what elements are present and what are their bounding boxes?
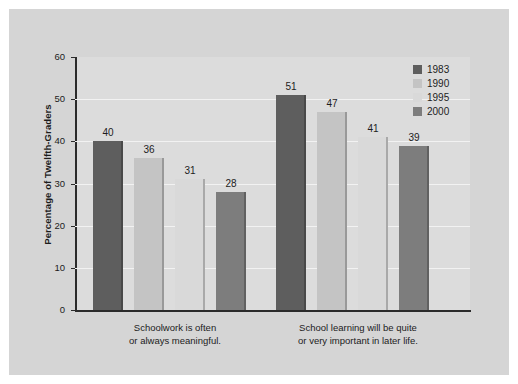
category-label: School learning will be quiteor very imp…	[253, 321, 463, 347]
y-tick-label: 40	[35, 136, 65, 146]
bar-value-label: 36	[129, 144, 169, 155]
y-tick-label: 20	[35, 221, 65, 231]
legend-swatch-icon	[413, 93, 422, 102]
legend-swatch-icon	[413, 79, 422, 88]
bar-value-label: 41	[353, 123, 393, 134]
bar-value-label: 31	[170, 165, 210, 176]
y-tick-label: 0	[35, 305, 65, 315]
legend-item: 1983	[413, 63, 449, 76]
bar	[134, 158, 164, 310]
y-tick-label: 10	[35, 263, 65, 273]
bar-value-label: 39	[394, 132, 434, 143]
bar	[175, 179, 205, 310]
y-tick-label: 60	[35, 52, 65, 62]
legend-swatch-icon	[413, 107, 422, 116]
y-tick-mark	[71, 57, 75, 58]
legend: 1983199019952000	[413, 63, 449, 119]
y-tick-mark	[71, 268, 75, 269]
y-tick-mark	[71, 226, 75, 227]
y-tick-mark	[71, 99, 75, 100]
bar	[317, 112, 347, 310]
y-tick-mark	[71, 184, 75, 185]
legend-item: 1995	[413, 91, 449, 104]
legend-label: 1995	[427, 93, 449, 103]
bar-value-label: 40	[88, 127, 128, 138]
y-tick-mark	[71, 310, 75, 311]
bar-value-label: 47	[312, 98, 352, 109]
legend-item: 2000	[413, 105, 449, 118]
bar	[358, 137, 388, 310]
y-tick-label: 50	[35, 94, 65, 104]
category-label: Schoolwork is oftenor always meaningful.	[70, 321, 280, 347]
legend-label: 2000	[427, 107, 449, 117]
bar	[399, 146, 429, 310]
y-tick-mark	[71, 141, 75, 142]
category-label-line: or always meaningful.	[70, 334, 280, 347]
x-axis-line	[75, 310, 471, 312]
legend-label: 1990	[427, 79, 449, 89]
bar-value-label: 51	[271, 81, 311, 92]
legend-label: 1983	[427, 65, 449, 75]
bar	[93, 141, 123, 310]
category-label-line: or very important in later life.	[253, 334, 463, 347]
bar	[276, 95, 306, 310]
bar	[216, 192, 246, 310]
legend-item: 1990	[413, 77, 449, 90]
category-label-line: Schoolwork is often	[70, 321, 280, 334]
chart-figure: Percentage of Twelfth-Graders 6050403020…	[9, 9, 509, 375]
bar-value-label: 28	[211, 178, 251, 189]
y-axis-title: Percentage of Twelfth-Graders	[42, 75, 53, 275]
gridline	[75, 99, 470, 100]
legend-swatch-icon	[413, 65, 422, 74]
y-tick-label: 30	[35, 179, 65, 189]
category-label-line: School learning will be quite	[253, 321, 463, 334]
